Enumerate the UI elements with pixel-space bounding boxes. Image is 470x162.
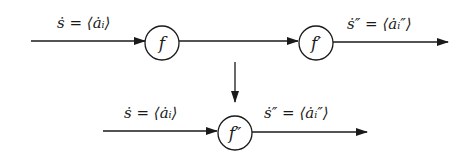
output-label-bottom: ṡ″ = ⟨ȧᵢ″⟩ xyxy=(264,104,329,122)
node-f-double-prime-label: f″ xyxy=(227,123,242,143)
output-label-top: ṡ″ = ⟨ȧᵢ″⟩ xyxy=(347,15,412,33)
input-label-top: ṡ = ⟨ȧᵢ⟩ xyxy=(57,14,110,32)
composition-diagram: ṡ = ⟨ȧᵢ⟩ f f′ ṡ″ = ⟨ȧᵢ″⟩ ṡ = ⟨ȧᵢ⟩ f″ ṡ″ … xyxy=(0,0,470,162)
node-f-prime-label: f′ xyxy=(309,33,321,53)
node-f-label: f xyxy=(157,33,168,53)
top-row: ṡ = ⟨ȧᵢ⟩ f f′ ṡ″ = ⟨ȧᵢ″⟩ xyxy=(31,14,448,60)
input-label-bottom: ṡ = ⟨ȧᵢ⟩ xyxy=(124,104,177,122)
bottom-row: ṡ = ⟨ȧᵢ⟩ f″ ṡ″ = ⟨ȧᵢ″⟩ xyxy=(103,104,367,150)
